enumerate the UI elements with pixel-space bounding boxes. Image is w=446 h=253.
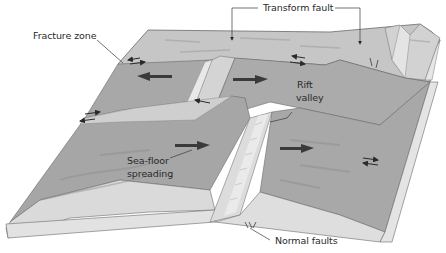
- rift-valley-label-line1: Rift: [297, 79, 313, 91]
- transform-fault-label: Transform fault: [263, 2, 333, 14]
- fracture-zone-label: Fracture zone: [33, 30, 96, 42]
- rift-valley-label-line2: valley: [296, 92, 324, 104]
- sea-floor-spreading-label-line2: spreading: [127, 168, 173, 180]
- normal-faults-label: Normal faults: [275, 235, 338, 247]
- sea-floor-spreading-label-line1: Sea-floor: [127, 155, 169, 167]
